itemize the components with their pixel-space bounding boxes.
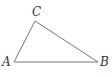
vertex-label-b: B xyxy=(99,55,109,69)
triangle-abc xyxy=(14,21,98,62)
vertex-label-c: C xyxy=(32,5,41,19)
vertex-label-a: A xyxy=(1,55,11,69)
triangle-diagram: A B C xyxy=(0,0,112,77)
